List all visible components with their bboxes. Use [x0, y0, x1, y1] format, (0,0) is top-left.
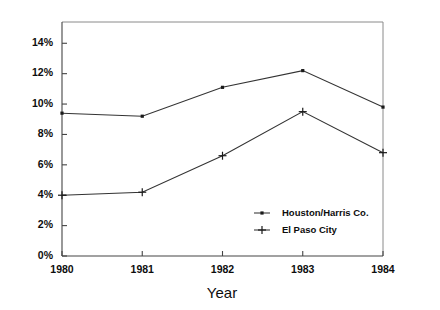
x-tick-label-0: 1980	[50, 263, 74, 275]
data-point-0-0	[60, 112, 63, 115]
x-tick-label-3: 1983	[291, 263, 315, 275]
x-axis-title: Year	[207, 284, 237, 301]
series-1	[58, 108, 387, 200]
x-tick-label-2: 1982	[211, 263, 235, 275]
y-tick-label-3: 6%	[38, 158, 54, 170]
x-tick-label-4: 1984	[371, 263, 395, 275]
line-chart: 0%2%4%6%8%10%12%14% 19801981198219831984…	[0, 0, 440, 310]
data-point-0-2	[221, 86, 224, 89]
y-tick-label-0: 0%	[38, 249, 54, 261]
chart-container: 0%2%4%6%8%10%12%14% 19801981198219831984…	[0, 0, 440, 310]
data-point-0-4	[381, 105, 384, 108]
data-series-layer	[58, 69, 387, 199]
chart-legend: Houston/Harris Co.El Paso City	[254, 207, 369, 235]
legend-label-0: Houston/Harris Co.	[282, 207, 369, 218]
plot-frame	[62, 22, 383, 256]
series-line-0	[62, 71, 383, 117]
x-axis-ticks	[62, 251, 383, 256]
y-axis-ticks	[62, 43, 67, 256]
x-axis-tick-labels: 19801981198219831984	[50, 263, 395, 275]
y-tick-label-1: 2%	[38, 218, 54, 230]
legend-marker-0	[260, 211, 263, 214]
x-tick-label-1: 1981	[131, 263, 155, 275]
y-tick-label-7: 14%	[32, 36, 54, 48]
x-axis: 19801981198219831984 Year	[50, 251, 395, 301]
data-point-0-3	[301, 69, 304, 72]
y-tick-label-6: 12%	[32, 66, 54, 78]
legend-label-1: El Paso City	[282, 224, 338, 235]
y-axis-tick-labels: 0%2%4%6%8%10%12%14%	[32, 36, 54, 261]
legend-entry-1: El Paso City	[254, 224, 338, 235]
y-axis: 0%2%4%6%8%10%12%14%	[32, 22, 67, 261]
y-tick-label-2: 4%	[38, 188, 54, 200]
legend-entry-0: Houston/Harris Co.	[254, 207, 369, 218]
y-tick-label-5: 10%	[32, 97, 54, 109]
y-tick-label-4: 8%	[38, 127, 54, 139]
data-point-0-1	[141, 115, 144, 118]
series-0	[60, 69, 384, 118]
